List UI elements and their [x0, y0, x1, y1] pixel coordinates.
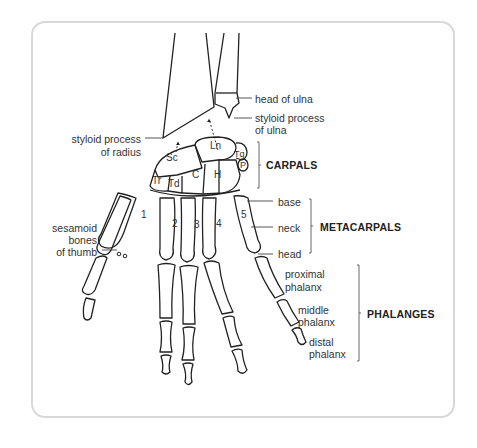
finger-ring: [204, 261, 247, 373]
carpal-label-tq: Tq: [234, 149, 245, 159]
label-styloid-ulna-line1: styloid process: [255, 112, 324, 124]
group-label-metacarpals: METACARPALS: [320, 221, 401, 233]
label-middle-line2: phalanx: [298, 316, 335, 328]
metacarpal-number-1: 1: [141, 209, 147, 220]
label-sesamoid-line1: sesamoid: [52, 222, 97, 234]
label-proximal-line1: proximal: [285, 268, 325, 280]
thumb-phalanges: [82, 256, 107, 320]
label-sesamoid-line2: bones: [68, 234, 97, 246]
label-distal-line2: phalanx: [309, 348, 346, 360]
finger-middle: [180, 266, 198, 385]
label-middle-line1: middle: [298, 304, 329, 316]
carpal-label-h: H: [214, 169, 221, 180]
carpal-bones: [150, 137, 248, 194]
metacarpal-number-2: 2: [172, 218, 178, 229]
label-styloid-ulna-line2: of ulna: [255, 124, 287, 136]
group-label-carpals: CARPALS: [266, 159, 317, 171]
carpal-label-ln: Ln: [210, 140, 221, 151]
label-proximal-line2: phalanx: [285, 281, 322, 293]
metacarpal-number-5: 5: [241, 209, 247, 220]
group-brackets: [257, 142, 361, 361]
carpal-label-td: Td: [168, 178, 180, 189]
label-base: base: [278, 196, 301, 208]
label-head: head: [278, 248, 301, 260]
metacarpal-number-3: 3: [194, 219, 200, 230]
label-styloid-radius-line2: of radius: [101, 146, 141, 158]
carpal-label-c: C: [192, 169, 199, 180]
carpal-label-p: P: [240, 160, 246, 170]
label-neck: neck: [278, 222, 300, 234]
carpal-label-tr: Tr: [152, 175, 161, 186]
ulna-bone: [215, 33, 239, 118]
finger-index: [158, 264, 175, 375]
metacarpal-number-4: 4: [216, 218, 222, 229]
label-styloid-radius-line1: styloid process: [72, 133, 141, 145]
carpal-label-sc: Sc: [166, 152, 178, 163]
group-label-phalanges: PHALANGES: [367, 308, 435, 320]
radius-bone: [163, 33, 214, 138]
label-distal-line1: distal: [309, 336, 334, 348]
leader-lines: [102, 98, 273, 254]
metacarpal-bones: [97, 190, 261, 262]
label-sesamoid-line3: of thumb: [56, 246, 97, 258]
label-head-of-ulna: head of ulna: [255, 93, 313, 105]
